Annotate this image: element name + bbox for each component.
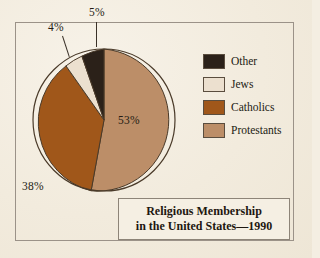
leader-line-other xyxy=(96,22,97,47)
legend-label-jews: Jews xyxy=(231,79,253,91)
chart-legend: Other Jews Catholics Protestants xyxy=(203,53,291,145)
legend-item-catholics: Catholics xyxy=(203,99,291,116)
legend-swatch-protestants xyxy=(203,123,225,138)
chart-title-line1: Religious Membership xyxy=(146,204,262,219)
legend-item-jews: Jews xyxy=(203,76,291,93)
pie-chart-svg xyxy=(31,47,177,193)
legend-item-protestants: Protestants xyxy=(203,122,291,139)
chart-title-line2: in the United States—1990 xyxy=(136,219,272,234)
legend-swatch-jews xyxy=(203,77,225,92)
legend-label-catholics: Catholics xyxy=(231,102,274,114)
pie-label-protestants: 53% xyxy=(118,114,140,126)
legend-label-protestants: Protestants xyxy=(231,125,281,137)
pie-label-jews: 4% xyxy=(48,21,64,33)
legend-swatch-catholics xyxy=(203,100,225,115)
pie-label-catholics: 38% xyxy=(22,180,44,192)
legend-swatch-other xyxy=(203,54,225,69)
legend-item-other: Other xyxy=(203,53,291,70)
legend-label-other: Other xyxy=(231,56,257,68)
pie-label-other: 5% xyxy=(89,6,105,18)
pie-chart xyxy=(31,47,177,193)
chart-title-box: Religious Membership in the United State… xyxy=(118,198,290,240)
